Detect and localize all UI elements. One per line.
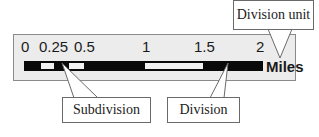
callout-subdivision: Subdivision xyxy=(62,97,151,123)
tick-label-0-5: 0.5 xyxy=(74,39,95,55)
tick-label-0: 0 xyxy=(21,39,29,55)
unit-label: Miles xyxy=(266,59,304,75)
scale-bar-diagram: 0 0.25 0.5 1 1.5 2 Miles Division unit S… xyxy=(0,0,319,137)
callout-division: Division xyxy=(167,97,240,123)
callout-subdivision-text: Subdivision xyxy=(73,102,140,118)
tick-label-2: 2 xyxy=(256,39,264,55)
tick-label-0-25: 0.25 xyxy=(39,39,68,55)
callout-division-text: Division xyxy=(179,102,227,118)
bar-segment-division-3 xyxy=(203,61,263,71)
bar-segment-subdivision-1 xyxy=(24,61,41,71)
tick-label-1-5: 1.5 xyxy=(194,39,215,55)
tick-label-1: 1 xyxy=(142,39,150,55)
bar-segment-subdivision-2 xyxy=(41,61,54,71)
callout-division-unit-text: Division unit xyxy=(237,7,311,23)
bar-segment-division-2 xyxy=(145,61,203,71)
bar-segment-division-1 xyxy=(84,61,145,71)
bar-segment-subdivision-3 xyxy=(54,61,69,71)
bar-segment-subdivision-4 xyxy=(69,61,84,71)
callout-division-unit: Division unit xyxy=(233,0,314,30)
